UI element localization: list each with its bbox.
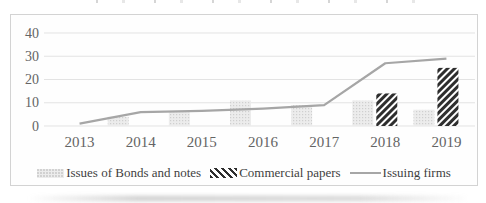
bar-bonds-and-notes-2019: [413, 110, 434, 126]
y-tick-label: 0: [32, 119, 39, 134]
dotted-swatch-icon: [37, 169, 64, 178]
scan-artifact: [28, 196, 470, 201]
bar-commercial-papers-2019: [437, 68, 458, 126]
x-tick-label: 2017: [309, 134, 340, 150]
chart-canvas: 0102030402013201420152016201720182019: [11, 15, 477, 161]
legend-item: Issuing firms: [350, 165, 451, 181]
x-tick-label: 2019: [431, 134, 461, 150]
bar-bonds-and-notes-2015: [169, 112, 190, 126]
legend-item: Commercial papers: [210, 165, 340, 181]
chart-legend: Issues of Bonds and notesCommercial pape…: [11, 161, 477, 185]
legend-item: Issues of Bonds and notes: [37, 165, 201, 181]
y-tick-label: 20: [25, 72, 39, 87]
y-tick-label: 10: [25, 95, 39, 110]
x-tick-label: 2015: [187, 134, 217, 150]
chart-container: 0102030402013201420152016201720182019 Is…: [10, 14, 478, 186]
hatch-swatch-icon: [210, 168, 237, 178]
legend-label: Issuing firms: [383, 165, 451, 181]
y-tick-label: 40: [25, 26, 39, 41]
x-tick-label: 2016: [248, 134, 279, 150]
legend-label: Issues of Bonds and notes: [66, 165, 201, 181]
cropped-caption-remnant: [96, 0, 432, 3]
bar-commercial-papers-2018: [376, 93, 397, 126]
x-tick-label: 2013: [65, 134, 95, 150]
x-tick-label: 2014: [126, 134, 157, 150]
line-swatch-icon: [350, 172, 381, 174]
bar-bonds-and-notes-2018: [352, 100, 373, 126]
bar-bonds-and-notes-2016: [230, 100, 251, 126]
y-tick-label: 30: [25, 49, 39, 64]
bar-bonds-and-notes-2017: [291, 105, 312, 126]
x-tick-label: 2018: [370, 134, 400, 150]
legend-label: Commercial papers: [239, 165, 340, 181]
